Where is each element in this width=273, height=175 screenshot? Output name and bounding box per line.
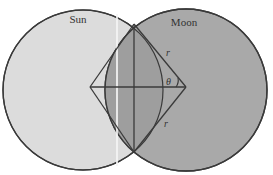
radius-label-upper: r <box>166 47 170 58</box>
radius-label-lower: r <box>164 118 168 129</box>
moon-label: Moon <box>171 16 198 28</box>
white-strip <box>116 14 118 166</box>
angle-theta-label: θ <box>166 76 171 87</box>
top-intersection-marker <box>128 14 140 22</box>
sun-label: Sun <box>69 13 87 25</box>
sun-moon-eclipse-diagram: Sun Moon r r θ <box>0 0 273 175</box>
